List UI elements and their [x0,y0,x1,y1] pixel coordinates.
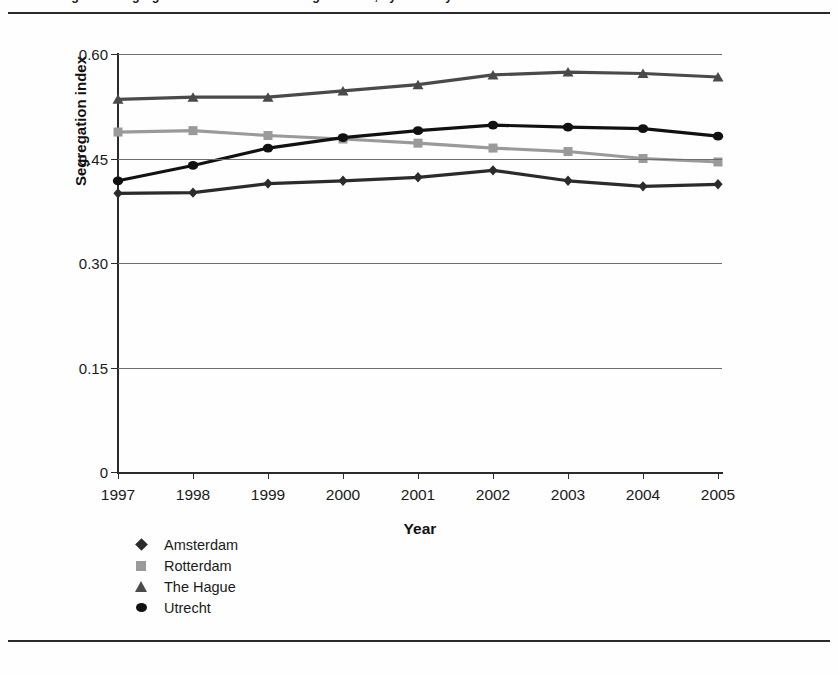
x-axis-tick-label: 2001 [401,486,435,504]
data-point-marker [563,123,573,132]
data-point-marker [188,161,198,170]
data-point-marker [189,126,198,135]
y-axis-tick [111,368,118,369]
triangle-marker-icon [128,581,154,592]
plot-area: Segregation index Year 19971998199920002… [118,54,722,472]
x-axis-tick [493,472,494,479]
data-point-marker [413,126,423,135]
x-axis-tick-label: 2003 [551,486,585,504]
data-point-marker [488,165,497,175]
figure-caption: Figure 1. Segregation index of the four … [60,0,580,3]
x-axis-tick-label: 2002 [476,486,510,504]
data-point-marker [114,128,123,137]
x-axis-tick [418,472,419,479]
top-rule [8,12,830,14]
legend-swatch [136,603,147,612]
data-point-marker [563,176,572,186]
legend-label: The Hague [164,579,236,595]
legend-item-the-hague[interactable]: The Hague [128,576,238,597]
data-point-marker [113,176,123,185]
data-point-marker [414,139,423,148]
gridline [118,263,722,264]
data-point-marker [338,176,347,186]
legend-label: Amsterdam [164,537,238,553]
data-point-marker [638,124,648,133]
gridline [118,159,722,160]
y-axis-tick-label: 0 [100,464,108,481]
legend-swatch [135,538,148,551]
legend-item-utrecht[interactable]: Utrecht [128,597,238,618]
x-axis-tick [643,472,644,479]
data-point-marker [113,188,122,198]
data-point-marker [638,181,647,191]
y-axis-tick [111,54,118,55]
legend-swatch [136,561,146,571]
x-axis-tick [118,472,119,479]
data-point-marker [713,132,723,141]
data-point-marker [338,133,348,142]
legend-swatch [135,581,147,592]
data-point-marker [488,121,498,130]
gridline [118,368,722,369]
chart-legend: AmsterdamRotterdamThe HagueUtrecht [128,534,238,618]
gridline [118,54,722,55]
y-axis-tick-label: 0.15 [79,359,108,376]
data-point-marker [263,178,272,188]
legend-item-amsterdam[interactable]: Amsterdam [128,534,238,555]
data-point-marker [713,179,722,189]
legend-label: Rotterdam [164,558,232,574]
x-axis-tick-label: 2005 [701,486,735,504]
x-axis-tick [193,472,194,479]
series-the-hague [113,67,724,104]
series-amsterdam [113,165,722,198]
y-axis-tick-label: 0.30 [79,255,108,272]
y-axis-tick [111,472,118,473]
legend-item-rotterdam[interactable]: Rotterdam [128,555,238,576]
square-marker-icon [128,561,154,571]
x-axis-tick-label: 1998 [176,486,210,504]
diamond-marker-icon [128,540,154,549]
x-axis-tick [343,472,344,479]
circle-marker-icon [128,603,154,612]
x-axis-tick-label: 1997 [101,486,135,504]
data-point-marker [264,131,273,140]
x-axis-tick-label: 2000 [326,486,360,504]
x-axis-tick [718,472,719,479]
data-point-marker [489,144,498,153]
figure-container: Figure 1. Segregation index of the four … [0,0,838,675]
y-axis-tick [111,263,118,264]
y-axis-tick [111,159,118,160]
legend-label: Utrecht [164,600,211,616]
x-axis-line [117,472,723,474]
y-axis-title: Segregation index [72,0,89,186]
x-axis-tick-label: 1999 [251,486,285,504]
data-point-marker [188,187,197,197]
x-axis-tick [568,472,569,479]
bottom-rule [8,640,830,642]
data-point-marker [413,172,422,182]
data-point-marker [564,147,573,156]
data-point-marker [263,144,273,153]
x-axis-tick-label: 2004 [626,486,660,504]
x-axis-tick [268,472,269,479]
